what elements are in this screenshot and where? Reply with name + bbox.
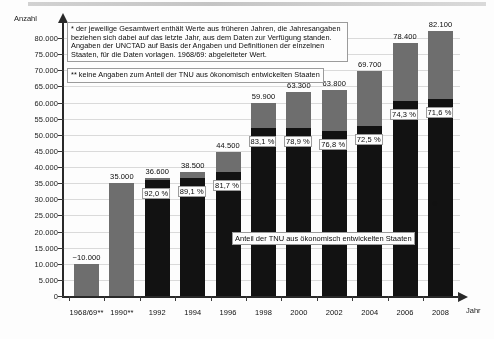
x-axis-tick-label: 1990** (110, 308, 133, 317)
bar-segment-developed-share (145, 187, 170, 296)
y-axis-tick-label: 60.000 (34, 98, 58, 107)
x-axis-arrow-icon (458, 292, 468, 302)
y-axis-tick (58, 167, 64, 168)
bar-segment-boundary-band (357, 126, 382, 133)
y-axis-tick (58, 135, 64, 136)
x-axis-tick (423, 296, 424, 301)
bar-2006 (393, 43, 418, 296)
bar-196869 (74, 264, 99, 296)
bar-segment-total (74, 264, 99, 296)
bar-value-label: ~10.000 (72, 253, 100, 262)
y-axis-tick (58, 86, 64, 87)
bar-percentage-label: 76,8 % (319, 139, 347, 150)
x-axis-tick-label: 2004 (361, 308, 378, 317)
y-axis-tick-label: 55.000 (34, 114, 58, 123)
y-axis-tick-labels: 05.00010.00015.00020.00025.00030.00035.0… (2, 22, 58, 298)
bar-value-label: 69.700 (358, 60, 382, 69)
bar-percentage-label: 74,3 % (390, 109, 418, 120)
x-axis-tick (281, 296, 282, 301)
y-axis-tick-label: 40.000 (34, 163, 58, 172)
y-axis-tick (58, 38, 64, 39)
bar-percentage-label: 89,1 % (178, 186, 206, 197)
bar-segment-remainder (393, 43, 418, 101)
bar-segment-boundary-band (286, 128, 311, 135)
bar-segment-remainder (357, 71, 382, 126)
bar-segment-boundary-band (145, 180, 170, 187)
bar-segment-boundary-band (251, 128, 276, 135)
y-axis-tick (58, 183, 64, 184)
x-axis-tick-label: 1968/69** (70, 308, 104, 317)
y-axis-tick-label: 65.000 (34, 82, 58, 91)
x-axis-tick (69, 296, 70, 301)
y-axis-tick (58, 119, 64, 120)
x-axis-tick-label: 2008 (432, 308, 449, 317)
y-axis-tick (58, 103, 64, 104)
bar-percentage-label: 92,0 % (142, 188, 170, 199)
x-axis-line (62, 296, 460, 298)
bar-value-label: 82.100 (429, 20, 453, 29)
y-axis-tick-label: 0 (54, 292, 58, 301)
y-axis-tick (58, 151, 64, 152)
bar-segment-remainder (428, 31, 453, 99)
bar-percentage-label: 81,7 % (213, 180, 241, 191)
bar-value-label: 59.900 (252, 92, 276, 101)
bar-value-label: 63.800 (323, 79, 347, 88)
bar-segment-developed-share (180, 185, 205, 296)
y-axis-tick-label: 10.000 (34, 259, 58, 268)
bar-value-label: 44.500 (216, 141, 240, 150)
bar-percentage-label: 71,6 % (426, 107, 454, 118)
x-axis-tick-label: 2002 (326, 308, 343, 317)
y-axis-tick-label: 35.000 (34, 179, 58, 188)
y-axis-tick (58, 215, 64, 216)
y-axis-tick-label: 75.000 (34, 50, 58, 59)
bar-segment-remainder (251, 103, 276, 129)
bar-segment-developed-share (428, 106, 453, 296)
bar-segment-developed-share (357, 133, 382, 296)
bar-value-label: 78.400 (393, 32, 417, 41)
bar-1996 (216, 152, 241, 296)
bar-value-label: 35.000 (110, 172, 134, 181)
y-axis-tick (58, 296, 64, 297)
y-axis-tick-label: 25.000 (34, 211, 58, 220)
bar-value-label: 36.600 (146, 167, 170, 176)
series-legend-note: Anteil der TNU aus ökonomisch entwickelt… (232, 232, 415, 245)
bar-2000 (286, 92, 311, 296)
x-axis-tick (211, 296, 212, 301)
y-axis-tick (58, 232, 64, 233)
x-axis-tick (175, 296, 176, 301)
y-axis-tick (58, 248, 64, 249)
bar-percentage-label: 72,5 % (355, 134, 383, 145)
x-axis-tick-label: 2006 (397, 308, 414, 317)
x-axis-title: Jahr (466, 306, 481, 315)
y-axis-tick (58, 54, 64, 55)
y-axis-tick (58, 280, 64, 281)
x-axis-tick (317, 296, 318, 301)
bar-segment-developed-share (286, 135, 311, 296)
x-axis-tick-label: 1992 (149, 308, 166, 317)
x-axis-tick (352, 296, 353, 301)
bar-segment-remainder (216, 152, 241, 171)
x-axis-tick (246, 296, 247, 301)
bar-2004 (357, 71, 382, 296)
bar-segment-boundary-band (393, 101, 418, 108)
bar-segment-boundary-band (216, 172, 241, 179)
bar-2008 (428, 31, 453, 296)
bar-segment-developed-share (393, 108, 418, 296)
y-axis-tick-label: 20.000 (34, 227, 58, 236)
bar-2002 (322, 90, 347, 296)
x-axis-tick (104, 296, 105, 301)
scan-artifact-strip (28, 2, 486, 6)
bar-value-label: 38.500 (181, 161, 205, 170)
bar-segment-total (109, 183, 134, 296)
y-axis-tick-label: 30.000 (34, 195, 58, 204)
x-axis-tick-label: 1996 (220, 308, 237, 317)
bar-segment-remainder (286, 92, 311, 128)
bar-segment-boundary-band (322, 131, 347, 138)
y-axis-line (62, 22, 64, 298)
y-axis-tick-label: 80.000 (34, 34, 58, 43)
bar-segment-boundary-band (180, 178, 205, 185)
bar-percentage-label: 78,9 % (284, 136, 312, 147)
y-axis-tick (58, 70, 64, 71)
y-axis-tick-label: 5.000 (39, 275, 58, 284)
bar-segment-developed-share (322, 138, 347, 296)
